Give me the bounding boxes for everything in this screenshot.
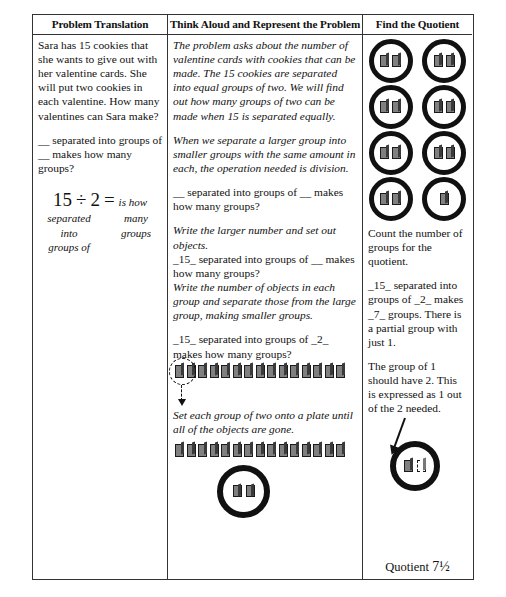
cookie-row-grouped <box>173 365 357 391</box>
strategy-table: Problem Translation Sara has 15 cookies … <box>32 14 474 580</box>
cookie-icon <box>336 365 345 378</box>
plate <box>369 39 413 83</box>
cookie-icon <box>392 193 401 205</box>
equation-label-left-1: separated <box>38 212 100 225</box>
cookie-icon <box>267 444 276 457</box>
cookie-icon <box>404 460 413 472</box>
cookie-icon <box>446 55 455 67</box>
frame-filled-1: _15_ separated into groups of __ makes h… <box>173 252 357 280</box>
cookie-icon <box>210 365 219 378</box>
cookie-icon <box>221 365 230 378</box>
header-think-aloud: Think Aloud and Represent the Problem <box>168 15 362 35</box>
cookie-icon <box>233 365 242 378</box>
cookie-icon <box>313 444 322 457</box>
think-aloud-para-5: Set each group of two onto a plate until… <box>173 408 357 436</box>
cookie-icon <box>290 444 299 457</box>
think-aloud-para-1: The problem asks about the number of val… <box>173 38 357 123</box>
cookie-icon <box>233 485 242 497</box>
equation-operator-icon: ÷ <box>76 189 86 211</box>
equation-label-left-2: into <box>38 227 100 240</box>
think-aloud-para-3: Write the larger number and set out obje… <box>173 223 357 251</box>
problem-text: Sara has 15 cookies that she wants to gi… <box>38 38 162 123</box>
plate <box>422 131 466 175</box>
plate-demo <box>217 465 270 518</box>
cookie-icon <box>417 460 426 472</box>
column-think-aloud: Think Aloud and Represent the Problem Th… <box>168 15 363 579</box>
column-problem-translation: Problem Translation Sara has 15 cookies … <box>33 15 168 579</box>
cookie-icon <box>302 444 311 457</box>
column-find-quotient: Find the Quotient Count the number of gr… <box>363 15 472 579</box>
quotient-text-1: Count the number of groups for the quoti… <box>368 226 467 268</box>
equation-label-right-1: many <box>110 212 162 225</box>
frame-filled-2: _15_ separated into groups of _2_ makes … <box>173 332 357 360</box>
equation-label-right-2: groups <box>110 227 162 240</box>
cookie-icon <box>198 365 207 378</box>
plate <box>369 177 413 221</box>
cookie-icon <box>434 101 443 113</box>
equation-equals: = <box>104 189 115 211</box>
plate <box>422 39 466 83</box>
cookie-icon <box>256 365 265 378</box>
cookie-row-2 <box>173 444 357 457</box>
frame-blank: __ separated into groups of __ makes how… <box>173 185 357 213</box>
cookie-icon <box>210 444 219 457</box>
plates-grid <box>363 35 472 224</box>
cookie-icon <box>392 55 401 67</box>
equation-divisor: 2 <box>90 189 100 211</box>
cookie-icon <box>233 444 242 457</box>
worksheet-page: Problem Translation Sara has 15 cookies … <box>0 0 506 597</box>
plate <box>369 131 413 175</box>
cookie-icon <box>244 365 253 378</box>
division-equation: 15 ÷ 2 = is how separated many into grou… <box>38 189 162 267</box>
quotient-text-3: The group of 1 should have 2. This is ex… <box>368 359 467 416</box>
cookie-icon <box>221 444 230 457</box>
think-aloud-para-2: When we separate a larger group into sma… <box>173 133 357 175</box>
dashed-arrow-icon <box>181 385 182 401</box>
cookie-icon <box>187 444 196 457</box>
plate <box>369 85 413 129</box>
quotient-label: Quotient <box>385 560 429 574</box>
quotient-value: 7½ <box>432 559 450 574</box>
think-aloud-para-4: Write the number of objects in each grou… <box>173 280 357 322</box>
cookie-icon <box>434 55 443 67</box>
sentence-frame-blank: __ separated into groups of __ makes how… <box>38 133 162 175</box>
cookie-icon <box>392 101 401 113</box>
cookie-icon <box>175 444 184 457</box>
cookie-icon <box>440 193 449 205</box>
plate <box>422 85 466 129</box>
plate <box>422 177 466 221</box>
cookie-icon <box>434 147 443 159</box>
cookie-icon <box>446 101 455 113</box>
cookie-icon <box>313 365 322 378</box>
cookie-row-1 <box>173 365 357 378</box>
cookie-icon <box>446 147 455 159</box>
cookie-icon <box>279 444 288 457</box>
cookie-icon <box>198 444 207 457</box>
dashed-group-circle-icon <box>169 358 196 385</box>
cookie-icon <box>336 444 345 457</box>
cookie-icon <box>302 365 311 378</box>
cookie-icon <box>256 444 265 457</box>
cookie-icon <box>246 485 255 497</box>
equation-label-left-3: groups of <box>38 241 100 254</box>
equation-equals-label: is how <box>119 196 147 208</box>
equation-dividend: 15 <box>53 189 72 211</box>
header-find-quotient: Find the Quotient <box>363 15 472 35</box>
cookie-icon <box>380 101 389 113</box>
final-plate <box>390 441 440 491</box>
quotient-result: Quotient 7½ <box>363 559 472 575</box>
header-problem-translation: Problem Translation <box>33 15 167 35</box>
cookie-icon <box>325 444 334 457</box>
cookie-icon <box>380 55 389 67</box>
cookie-icon <box>380 193 389 205</box>
cookie-icon <box>279 365 288 378</box>
cookie-icon <box>392 147 401 159</box>
cookie-icon <box>380 147 389 159</box>
cookie-icon <box>244 444 253 457</box>
cookie-icon <box>325 365 334 378</box>
cookie-icon <box>290 365 299 378</box>
final-plate-annotation <box>363 420 472 506</box>
quotient-text-2: _15_ separated into groups of _2_ makes … <box>368 278 467 349</box>
cookie-icon <box>267 365 276 378</box>
